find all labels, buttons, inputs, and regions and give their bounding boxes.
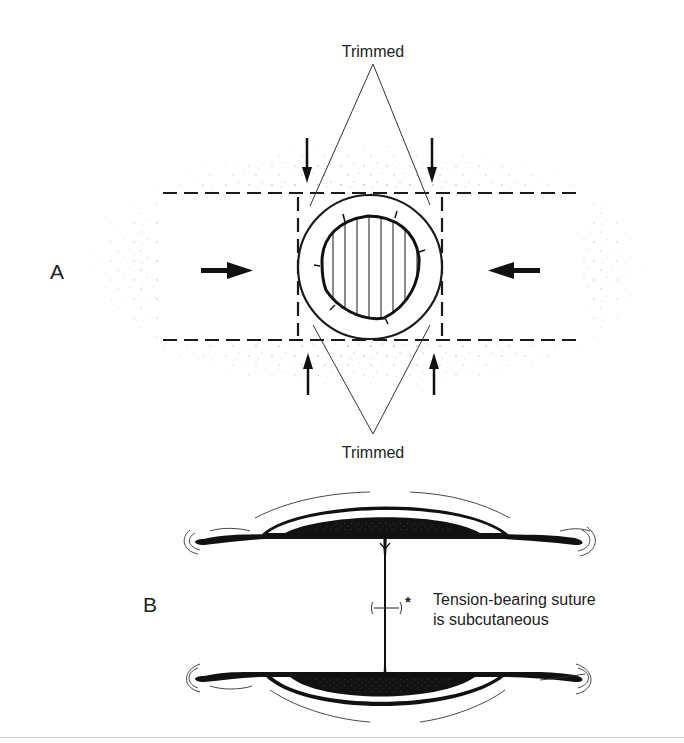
trimmed-top-label: Trimmed bbox=[342, 43, 405, 60]
panel-b: * B Tension-bearing suture is subcutaneo… bbox=[143, 492, 596, 722]
incision-closure bbox=[380, 536, 390, 684]
asterisk-marker: * bbox=[405, 593, 411, 610]
panel-b-label: B bbox=[143, 593, 157, 616]
surgical-diagram: A Trimmed Trimmed bbox=[0, 0, 684, 743]
suture-marker bbox=[372, 602, 402, 614]
bottom-wound-lip bbox=[187, 664, 592, 722]
panel-a-label: A bbox=[50, 260, 64, 283]
suture-annotation-line2: is subcutaneous bbox=[433, 611, 549, 628]
suture-annotation-line1: Tension-bearing suture bbox=[433, 591, 596, 608]
top-wound-lip bbox=[184, 492, 595, 556]
panel-a: A Trimmed Trimmed bbox=[50, 43, 680, 461]
trimmed-bottom-label: Trimmed bbox=[342, 444, 405, 461]
page-bottom-rule bbox=[0, 737, 684, 738]
circular-defect bbox=[298, 195, 442, 339]
